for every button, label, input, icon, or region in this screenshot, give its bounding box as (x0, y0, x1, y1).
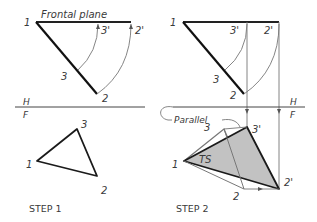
arrow-icon (96, 24, 100, 29)
point-label-1: 1 (26, 159, 32, 170)
point-label-3: 3 (204, 122, 210, 133)
arc-2-to-2prime (244, 24, 279, 94)
point-label-1: 1 (24, 17, 30, 28)
triangle-front (37, 129, 97, 176)
point-label-3: 3 (61, 71, 67, 82)
point-label-2prime: 2' (135, 25, 144, 36)
fold-label-h: H (290, 97, 297, 107)
point-label-3: 3 (213, 74, 219, 85)
parallel-label: Parallel (174, 115, 208, 125)
fold-label-h: H (23, 97, 30, 107)
point-label-3: 3 (81, 119, 87, 130)
parallel-callout-leader (161, 107, 173, 120)
arrow-icon (277, 109, 281, 114)
point-label-3prime: 3' (252, 124, 261, 135)
point-label-1: 1 (170, 17, 176, 28)
point-label-2: 2 (102, 93, 108, 104)
step1-top-view (36, 22, 133, 94)
point-label-2: 2 (230, 90, 236, 101)
step1-front-view (37, 129, 97, 176)
point-label-2prime: 2' (284, 177, 293, 188)
arrow-icon (245, 109, 249, 114)
arrow-icon (129, 24, 133, 29)
frontal-plane-label: Frontal plane (41, 9, 107, 20)
point-label-3prime: 3' (230, 25, 239, 36)
arrow-icon (258, 187, 263, 191)
step2-title: STEP 2 (176, 203, 209, 214)
descriptive-geometry-diagram: Frontal plane 1 3' 2' 3 2 H F 1 3 2 STEP… (0, 0, 317, 222)
parallel-callout-leader (222, 119, 240, 127)
step1-title: STEP 1 (29, 203, 62, 214)
point-label-2: 2 (233, 191, 239, 202)
point-label-2: 2 (101, 185, 107, 196)
point-label-1: 1 (172, 159, 178, 170)
fold-label-f: F (23, 110, 29, 120)
true-shape-label: TS (199, 154, 212, 165)
fold-label-f: F (290, 110, 296, 120)
arc-3-to-3prime (78, 24, 98, 70)
edge-1-2 (36, 22, 97, 94)
point-label-3prime: 3' (101, 25, 110, 36)
point-label-2prime: 2' (264, 25, 273, 36)
